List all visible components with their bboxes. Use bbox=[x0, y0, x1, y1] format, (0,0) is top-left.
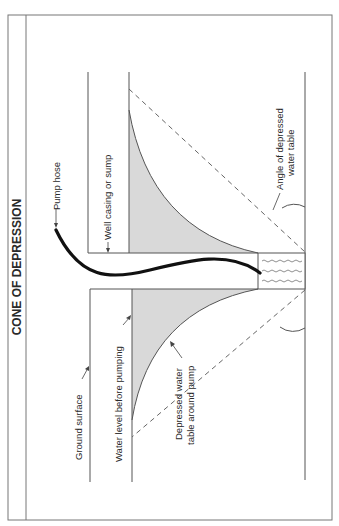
well-casing-label: Well casing or sump bbox=[102, 155, 113, 240]
arrowhead-icon bbox=[106, 248, 110, 253]
depressed-label-line2: table around pump bbox=[185, 366, 196, 445]
arrowhead-icon bbox=[126, 315, 131, 320]
arrowhead-icon bbox=[54, 223, 58, 228]
cone-of-depression-diagram: CONE OF DEPRESSION Pump hose Well casing… bbox=[0, 0, 339, 526]
angle-arc-lower bbox=[280, 327, 305, 331]
angle-arrow bbox=[273, 193, 280, 210]
water-level-label: Water level before pumping bbox=[113, 346, 124, 462]
ground-surface-label: Ground surface bbox=[73, 395, 84, 460]
diagram-title: CONE OF DEPRESSION bbox=[10, 199, 24, 336]
depressed-arrow bbox=[172, 344, 182, 358]
angle-label-line2: water table bbox=[285, 130, 296, 177]
angle-label-line1: Angle of depressed bbox=[274, 108, 285, 190]
pump-hose-label: Pump hose bbox=[51, 162, 62, 210]
angle-arc-upper bbox=[282, 204, 305, 208]
depressed-label-line1: Depressed water bbox=[173, 368, 184, 440]
arrowhead-icon bbox=[170, 341, 175, 347]
depressed-zone-upper bbox=[129, 110, 258, 253]
